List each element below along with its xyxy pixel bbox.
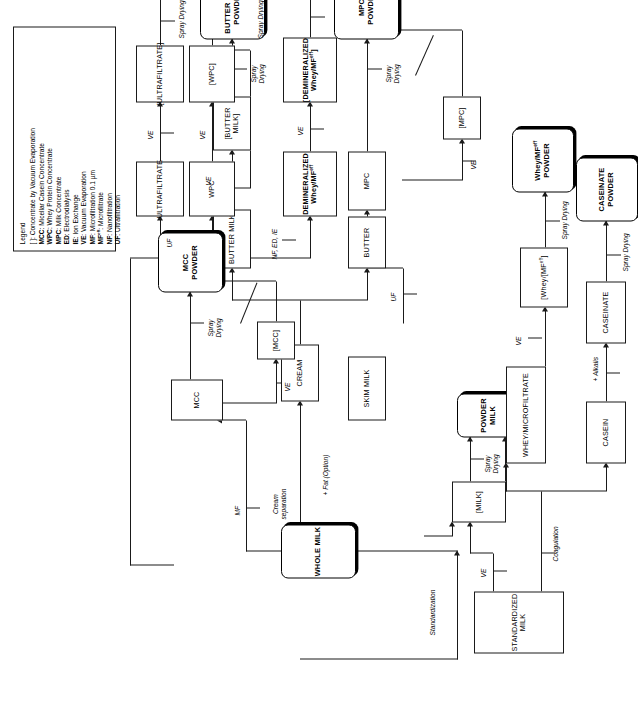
connector [310, 216, 311, 258]
connector [222, 402, 276, 403]
edge-label-spray-drying-ultrafiltrate: Spray Drying [178, 0, 186, 38]
connector [300, 300, 301, 344]
connector [493, 553, 494, 591]
tick [160, 132, 174, 133]
legend-entry: WPC: Whey Protein Concentrate [46, 33, 55, 244]
connector [300, 658, 458, 659]
connector [470, 552, 493, 553]
node-caseinate-powder[interactable]: CASEINATE POWDER [576, 157, 638, 221]
legend-entry: IE: Ion Exchange [72, 33, 81, 244]
connector [130, 564, 174, 565]
edge-label-ve-ultrafiltrate: VE [147, 130, 155, 139]
edge-label-add-fat: + Fat (Option) [322, 454, 330, 495]
node-whole-milk[interactable]: WHOLE MILK [281, 524, 356, 578]
connector [424, 535, 452, 536]
connector [232, 268, 233, 300]
node-mpc[interactable]: MPC [348, 151, 386, 210]
edge-label-spray-drying-caseinate: Spray Drying [622, 233, 630, 271]
node-demineralized-whey[interactable]: DEMINERALIZED Whey/MFeff [283, 151, 337, 216]
node-standardized-milk[interactable]: STANDARDIZED MILK [474, 591, 564, 653]
edge-label-uf-mcc: UF [166, 238, 174, 247]
node-ultrafiltrate[interactable]: ULTRAFILTRATE [136, 161, 184, 216]
node-caseinate[interactable]: CASEINATE [586, 281, 626, 343]
node-wpc[interactable]: WPC [189, 161, 235, 216]
tick [606, 372, 620, 373]
node-wpc-concentrate[interactable]: [WPC] [189, 45, 235, 102]
node-whey-mf-powder[interactable]: Whey/MFeff POWDER [512, 128, 574, 192]
leader-line [415, 35, 434, 76]
connector [403, 268, 404, 323]
node-ultrafiltrate-concentrate[interactable]: [ULTRAFILTRATE] [136, 45, 184, 102]
legend-rows: [ ]: Concentrate by Vacuum EvaporationMC… [29, 33, 123, 244]
node-butter-milk-concentrate[interactable]: [BUTTER MILK] [213, 96, 251, 150]
edge-label-coagulation: Coagulation [552, 526, 560, 561]
edge-label-uf-skim: UF [390, 292, 398, 301]
connector [506, 490, 606, 491]
connector [310, 102, 311, 151]
edge-label-nf-ed-ie: NF, ED, IE [271, 228, 279, 259]
node-skim-milk[interactable]: SKIM MILK [348, 356, 386, 420]
edge-label-spray-drying-mpc: Spray Drying [385, 64, 400, 83]
legend-entry: ED: Electrodialysis [63, 33, 72, 244]
connector [367, 268, 368, 300]
connector [224, 280, 276, 281]
connector [545, 192, 546, 247]
edge-label-mf: MF [234, 505, 242, 515]
tick [367, 68, 382, 69]
tick [606, 254, 621, 255]
leader-line [240, 282, 257, 323]
edge-label-spray-drying-milk: Spray Drying [484, 454, 499, 473]
node-mcc[interactable]: MCC [171, 379, 223, 420]
edge-label-spray-drying-demineralized: Spray Drying [257, 0, 265, 38]
tick [545, 220, 560, 221]
node-whey-microfiltrate[interactable]: WHEY/MICROFILTRATE [506, 366, 546, 463]
connector [190, 292, 191, 379]
tick [160, 20, 175, 21]
connector [402, 179, 462, 180]
node-mpc-concentrate[interactable]: [MPC] [443, 96, 481, 139]
node-whey-mf-concentrate[interactable]: [Whey/[MFeff] [520, 247, 568, 307]
node-whey-mf-concentrate-label: [Whey/[MFeff] [540, 255, 548, 299]
edge-label-spray-drying-whey: Spray Drying [561, 201, 569, 239]
edge-label-ve-mpc: VE [470, 160, 478, 169]
edge-label-ve-standardized: VE [480, 568, 488, 577]
connector [130, 258, 131, 565]
connector [606, 221, 607, 281]
connector [232, 299, 367, 300]
node-demineralized-whey-concentrate[interactable]: [DEMINERALIZED Whey/MFeff] [283, 37, 337, 102]
node-mpc-powder[interactable]: MPC POWDER [334, 0, 399, 39]
legend-title: Legend [19, 33, 26, 244]
node-milk-concentrate[interactable]: [MILK] [452, 481, 506, 522]
edge-label-ve-whey: VE [515, 336, 523, 345]
connector [457, 551, 458, 659]
node-butter-milk-powder[interactable]: BUTTER MILK POWDER [200, 0, 265, 39]
connector [246, 420, 247, 551]
connector [222, 419, 246, 420]
node-mcc-concentrate[interactable]: [MCC] [257, 321, 295, 359]
tick [282, 239, 296, 240]
connector [160, 102, 161, 161]
tick [470, 458, 484, 459]
edge-label-ve-demineralized: VE [297, 126, 305, 135]
connector [545, 307, 546, 366]
legend-entry: MFeff: Microfiltrate [97, 33, 106, 244]
legend-entry: MF: Microfiltration 0.1 µm [89, 33, 98, 244]
node-demineralized-whey-label: DEMINERALIZED Whey/MFeff [302, 153, 319, 215]
node-butter[interactable]: BUTTER [348, 216, 386, 268]
connector [470, 522, 471, 553]
edge-label-standardization: Standardization [429, 589, 437, 635]
node-casein[interactable]: CASEIN [586, 401, 626, 463]
node-demineralized-whey-concentrate-label: [DEMINERALIZED Whey/MFeff] [302, 37, 319, 101]
legend-entry: UF: Ultrafiltration [114, 33, 123, 244]
connector [160, 0, 161, 45]
tick [310, 16, 325, 17]
tick [190, 322, 204, 323]
connector [367, 39, 368, 151]
node-whey-mf-powder-label: Whey/MFeff POWDER [534, 140, 551, 180]
connector [462, 139, 463, 180]
edge-label-ve-mcc: VE [284, 382, 292, 391]
legend-entry: MPC: Milk Concentrate [55, 33, 64, 244]
legend-entry: [ ]: Concentrate by Vacuum Evaporation [29, 33, 38, 244]
